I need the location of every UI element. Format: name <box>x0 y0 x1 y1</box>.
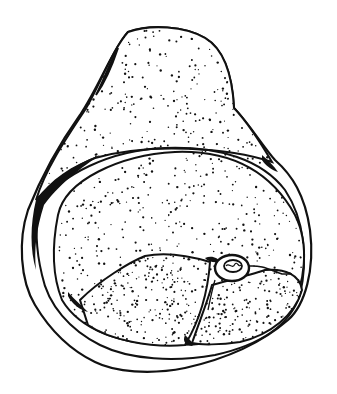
stipple-dot <box>193 265 195 267</box>
stipple-dot <box>251 238 253 240</box>
stipple-dot <box>128 42 129 43</box>
stipple-dot <box>121 228 123 230</box>
stipple-dot <box>226 296 228 298</box>
stipple-dot <box>244 300 246 302</box>
stipple-dot <box>102 136 104 138</box>
stipple-dot <box>293 290 295 292</box>
stipple-dot <box>159 53 161 55</box>
stipple-dot <box>48 29 50 31</box>
stipple-dot <box>171 270 172 271</box>
stipple-dot <box>148 244 150 246</box>
stipple-dot <box>260 53 261 54</box>
stipple-dot <box>176 80 178 82</box>
stipple-dot <box>176 99 177 100</box>
stipple-dot <box>277 210 279 212</box>
illustration-canvas <box>0 0 337 394</box>
stipple-dot <box>247 197 248 198</box>
stipple-dot <box>269 198 271 200</box>
stipple-dot <box>222 310 224 312</box>
stipple-dot <box>225 309 227 311</box>
stipple-dot <box>234 237 236 239</box>
stipple-dot <box>191 38 193 40</box>
stipple-dot <box>173 281 175 283</box>
stipple-dot <box>246 320 248 322</box>
stipple-dot <box>110 109 112 111</box>
stipple-dot <box>177 303 179 305</box>
stipple-dot <box>273 249 274 250</box>
stipple-dot <box>156 65 157 66</box>
stipple-dot <box>98 285 100 287</box>
stipple-dot <box>123 294 125 296</box>
stipple-dot <box>148 272 150 274</box>
stipple-dot <box>103 302 105 304</box>
stipple-dot <box>122 335 124 337</box>
stipple-dot <box>219 327 221 329</box>
stipple-dot <box>231 55 232 56</box>
stipple-dot <box>82 269 84 271</box>
stipple-dot <box>220 241 222 243</box>
stipple-dot <box>142 76 144 78</box>
stipple-dot <box>103 263 105 265</box>
stipple-dot <box>140 165 142 167</box>
stipple-dot <box>148 311 149 312</box>
stipple-dot <box>238 168 240 170</box>
stipple-dot <box>163 260 164 261</box>
stipple-dot <box>303 321 305 323</box>
stipple-dot <box>167 277 168 278</box>
stipple-dot <box>165 337 166 338</box>
stipple-dot <box>248 281 249 282</box>
stipple-dot <box>246 213 248 215</box>
stipple-dot <box>222 90 223 91</box>
stipple-dot <box>119 310 121 312</box>
stipple-dot <box>117 150 119 152</box>
stipple-dot <box>227 98 228 99</box>
stipple-dot <box>236 97 238 99</box>
stipple-dot <box>255 145 257 147</box>
stipple-dot <box>123 81 125 83</box>
stipple-dot <box>150 309 152 311</box>
stipple-dot <box>199 119 201 121</box>
stipple-dot <box>247 302 249 304</box>
stipple-dot <box>274 233 276 235</box>
stipple-dot <box>238 43 240 45</box>
stipple-dot <box>62 122 64 124</box>
stipple-dot <box>212 28 214 30</box>
stipple-dot <box>259 257 261 259</box>
stipple-dot <box>248 323 250 325</box>
stipple-dot <box>266 156 268 158</box>
stipple-dot <box>188 136 190 138</box>
stipple-dot <box>61 279 63 281</box>
stipple-dot <box>112 192 114 194</box>
stipple-dot <box>268 290 270 292</box>
stipple-dot <box>178 76 180 78</box>
stipple-dot <box>190 200 191 201</box>
stipple-dot <box>226 289 228 291</box>
stipple-dot <box>61 31 62 32</box>
stipple-dot <box>165 344 167 346</box>
stipple-dot <box>204 99 205 100</box>
stipple-dot <box>261 102 262 103</box>
stipple-dot <box>182 295 184 297</box>
stipple-dot <box>148 157 150 159</box>
stipple-dot <box>130 329 132 331</box>
stipple-dot <box>276 331 278 333</box>
stipple-dot <box>119 318 120 319</box>
stipple-dot <box>302 333 303 334</box>
stipple-dot <box>225 97 227 99</box>
stipple-dot <box>147 62 149 64</box>
stipple-dot <box>180 226 182 228</box>
stipple-dot <box>97 27 99 29</box>
stipple-dot <box>117 336 119 338</box>
stipple-dot <box>177 112 179 114</box>
stipple-dot <box>189 65 191 67</box>
stipple-dot <box>63 272 65 274</box>
stipple-dot <box>113 310 115 312</box>
stipple-dot <box>76 104 77 105</box>
stipple-dot <box>183 223 185 225</box>
stipple-dot <box>251 144 253 146</box>
stipple-dot <box>76 145 78 147</box>
stipple-dot <box>105 329 107 331</box>
stipple-dot <box>218 294 220 296</box>
stipple-dot <box>229 43 231 45</box>
stipple-dot <box>133 187 134 188</box>
